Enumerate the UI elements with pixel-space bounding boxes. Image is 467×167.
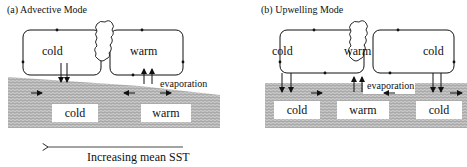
panel-a-title: (a) Advective Mode bbox=[7, 4, 87, 15]
ocean-b-right-label: cold bbox=[416, 101, 462, 119]
panel-b-title: (b) Upwelling Mode bbox=[261, 4, 343, 15]
atmos-b-center-label: warm bbox=[344, 45, 371, 57]
sst-axis-label: Increasing mean SST bbox=[87, 150, 190, 165]
evaporation-a-label: evaporation bbox=[160, 79, 207, 89]
ocean-b-left-label: cold bbox=[274, 101, 320, 119]
atmos-b-right-label: cold bbox=[423, 45, 444, 57]
atmos-b-left-label: cold bbox=[272, 45, 293, 57]
evaporation-b-label: evaporation bbox=[367, 81, 414, 91]
ocean-a-left-label: cold bbox=[52, 104, 98, 122]
cloud-a bbox=[95, 21, 114, 61]
atmos-a-left-label: cold bbox=[42, 45, 63, 57]
ocean-b-center-label: warm bbox=[337, 101, 389, 119]
ocean-a-right-label: warm bbox=[141, 104, 191, 122]
atmos-a-right-label: warm bbox=[130, 45, 157, 57]
